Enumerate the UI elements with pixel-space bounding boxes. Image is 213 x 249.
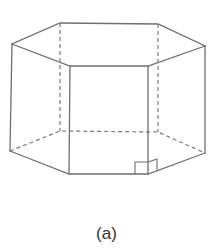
top-face: [12, 23, 205, 66]
edge-vertical-front-left: [69, 66, 70, 174]
right-angle-marker: [135, 162, 148, 174]
figure-caption: (a): [0, 224, 213, 244]
right-angle-marker-side: [148, 159, 157, 171]
hexagonal-prism-diagram: [0, 0, 213, 249]
bottom-front-edges: [10, 151, 205, 174]
hidden-bottom-back-edges: [10, 131, 205, 153]
edge-vertical-left: [10, 44, 12, 151]
